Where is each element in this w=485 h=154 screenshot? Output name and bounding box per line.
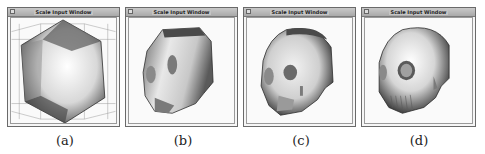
window-title: Scale Input Window [34, 9, 94, 15]
window-panel-c: Scale Input Window [243, 7, 356, 127]
coarse-skull-image [129, 18, 234, 123]
window-titlebar[interactable]: Scale Input Window [8, 8, 119, 17]
caption-d: (d) [399, 133, 439, 148]
caption-a: (a) [45, 133, 85, 148]
detailed-skull-image [365, 18, 472, 123]
window-titlebar[interactable]: Scale Input Window [244, 8, 355, 17]
window-panel-d: Scale Input Window [361, 7, 476, 127]
icosahedron-surface-image [11, 18, 116, 123]
window-title: Scale Input Window [152, 9, 212, 15]
caption-b: (b) [163, 133, 203, 148]
window-titlebar[interactable]: Scale Input Window [362, 8, 475, 17]
render-viewport [364, 17, 473, 124]
window-titlebar[interactable]: Scale Input Window [126, 8, 237, 17]
window-title: Scale Input Window [270, 9, 330, 15]
window-panel-a: Scale Input Window [7, 7, 120, 127]
intermediate-skull-image [247, 18, 352, 123]
render-viewport [128, 17, 235, 124]
render-viewport [10, 17, 117, 124]
render-viewport [246, 17, 353, 124]
caption-c: (c) [281, 133, 321, 148]
window-title: Scale Input Window [389, 9, 449, 15]
window-panel-b: Scale Input Window [125, 7, 238, 127]
